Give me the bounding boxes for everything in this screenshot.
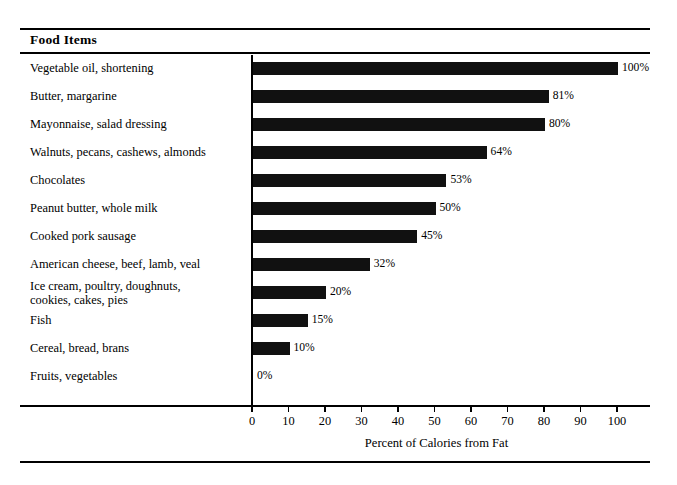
figure: Food Items Vegetable oil, shortening100%… bbox=[0, 0, 677, 485]
x-axis-tick-label: 100 bbox=[597, 414, 637, 429]
bar-row: Chocolates53% bbox=[0, 167, 677, 195]
bar-row: Ice cream, poultry, doughnuts, cookies, … bbox=[0, 279, 677, 307]
x-axis-tick-label: 60 bbox=[451, 414, 491, 429]
bar-row-label: Cooked pork sausage bbox=[30, 223, 245, 244]
bar-row-label: Fruits, vegetables bbox=[30, 363, 245, 384]
bar-row-label: Cereal, bread, brans bbox=[30, 335, 245, 356]
x-axis-tick-label: 20 bbox=[305, 414, 345, 429]
bar bbox=[253, 174, 446, 187]
bar bbox=[253, 342, 290, 355]
bar bbox=[253, 286, 326, 299]
bar-row: Fish15% bbox=[0, 307, 677, 335]
x-axis-tick-label: 10 bbox=[269, 414, 309, 429]
x-axis-tick-label: 30 bbox=[342, 414, 382, 429]
x-axis-tick-label: 90 bbox=[561, 414, 601, 429]
bar-row-label: Vegetable oil, shortening bbox=[30, 55, 245, 76]
bar-row-label: Ice cream, poultry, doughnuts, cookies, … bbox=[30, 279, 245, 307]
x-axis-title-text: Percent of Calories from Fat bbox=[365, 436, 508, 450]
bar-value-label: 45% bbox=[421, 229, 442, 243]
bar-row-label: Chocolates bbox=[30, 167, 245, 188]
bar-row: Vegetable oil, shortening100% bbox=[0, 55, 677, 83]
bar bbox=[253, 118, 545, 131]
x-axis-title: Percent of Calories from Fat bbox=[0, 436, 677, 451]
bar bbox=[253, 62, 618, 75]
x-axis-tick-label: 50 bbox=[415, 414, 455, 429]
bar-row: Peanut butter, whole milk50% bbox=[0, 195, 677, 223]
bar bbox=[253, 258, 370, 271]
bar-value-label: 15% bbox=[312, 313, 333, 327]
bar-row-label: Fish bbox=[30, 307, 245, 328]
bar-row: Walnuts, pecans, cashews, almonds64% bbox=[0, 139, 677, 167]
x-axis-tick-label: 70 bbox=[488, 414, 528, 429]
x-axis-line bbox=[20, 405, 650, 407]
bar-row: Butter, margarine81% bbox=[0, 83, 677, 111]
bar-value-label: 50% bbox=[440, 201, 461, 215]
bar-value-label: 10% bbox=[294, 341, 315, 355]
frame-rule-bottom bbox=[20, 461, 650, 463]
bar-row-label: Butter, margarine bbox=[30, 83, 245, 104]
bar-value-label: 53% bbox=[450, 173, 471, 187]
bar-row-label: Peanut butter, whole milk bbox=[30, 195, 245, 216]
bar-row: Mayonnaise, salad dressing80% bbox=[0, 111, 677, 139]
x-axis-tick-label: 0 bbox=[232, 414, 272, 429]
bar-chart-plot-area: Vegetable oil, shortening100%Butter, mar… bbox=[0, 0, 677, 485]
bar-row-label: Walnuts, pecans, cashews, almonds bbox=[30, 139, 245, 160]
bar-value-label: 64% bbox=[491, 145, 512, 159]
bar-value-label: 0% bbox=[257, 369, 272, 383]
bar-value-label: 32% bbox=[374, 257, 395, 271]
bar bbox=[253, 90, 549, 103]
bar bbox=[253, 202, 436, 215]
bar-row: American cheese, beef, lamb, veal32% bbox=[0, 251, 677, 279]
bar-row-label: American cheese, beef, lamb, veal bbox=[30, 251, 245, 272]
bar-value-label: 80% bbox=[549, 117, 570, 131]
bar-value-label: 100% bbox=[622, 61, 649, 75]
bar-row: Cereal, bread, brans10% bbox=[0, 335, 677, 363]
bar-row: Cooked pork sausage45% bbox=[0, 223, 677, 251]
bar bbox=[253, 314, 308, 327]
bar-value-label: 20% bbox=[330, 285, 351, 299]
bar bbox=[253, 146, 487, 159]
bar-row-label: Mayonnaise, salad dressing bbox=[30, 111, 245, 132]
x-axis-tick-label: 80 bbox=[524, 414, 564, 429]
bar-value-label: 81% bbox=[553, 89, 574, 103]
x-axis-tick-label: 40 bbox=[378, 414, 418, 429]
bar-row: Fruits, vegetables0% bbox=[0, 363, 677, 391]
bar bbox=[253, 230, 417, 243]
